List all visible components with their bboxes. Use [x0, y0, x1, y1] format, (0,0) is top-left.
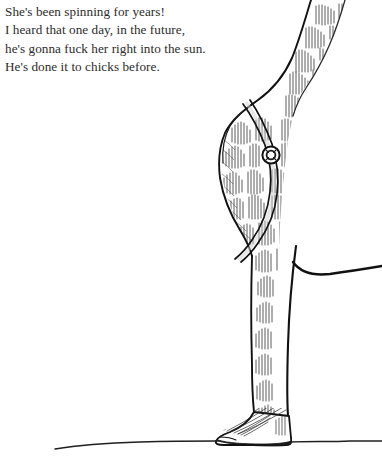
caption-line-4: He's done it to chicks before.	[5, 58, 255, 76]
strap-ring-icon	[262, 146, 279, 163]
caption-line-1: She's been spinning for years!	[5, 3, 255, 21]
foreleg-right-contour	[287, 246, 296, 416]
body-contour	[293, 262, 382, 275]
caption-text-block: She's been spinning for years! I heard t…	[5, 3, 255, 77]
foreleg-left-contour	[251, 256, 254, 412]
page-canvas: She's been spinning for years! I heard t…	[0, 0, 382, 475]
caption-line-3: he's gonna fuck her right into the sun.	[5, 40, 255, 58]
caption-line-2: I heard that one day, in the future,	[5, 21, 255, 39]
